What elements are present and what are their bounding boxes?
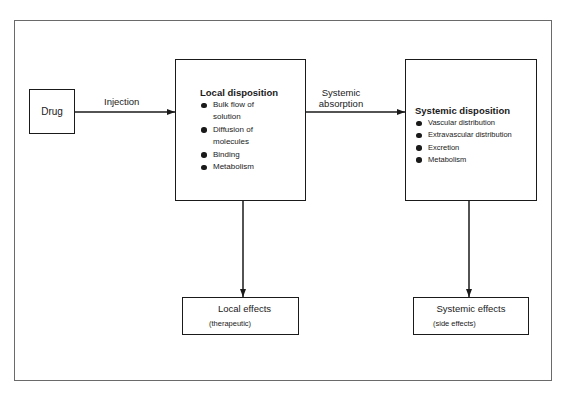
systemic-effects-title: Systemic effects — [414, 303, 528, 314]
list-item: Excretion — [415, 142, 512, 154]
list-item: Metabolism — [200, 161, 254, 173]
list-item: Metabolism — [415, 154, 512, 166]
list-item: Bulk flow ofsolution — [200, 99, 254, 124]
local-disposition-list: Bulk flow ofsolution Diffusion ofmolecul… — [200, 99, 254, 173]
local-effects-title: Local effects — [183, 303, 298, 314]
systemic-disposition-title: Systemic disposition — [415, 105, 510, 116]
local-disposition-node: Local disposition Bulk flow ofsolution D… — [175, 59, 306, 201]
systemic-effects-node: Systemic effects (side effects) — [413, 297, 529, 335]
list-item: Binding — [200, 149, 254, 161]
injection-label: Injection — [104, 96, 139, 107]
local-effects-subtitle: (therapeutic) — [209, 319, 251, 328]
systemic-absorption-label: Systemic absorption — [310, 87, 372, 109]
list-item: Diffusion ofmolecules — [200, 124, 254, 149]
absorption-label-line2: absorption — [310, 98, 372, 109]
systemic-effects-subtitle: (side effects) — [433, 319, 476, 328]
absorption-label-line1: Systemic — [310, 87, 372, 98]
list-item: Vascular distribution — [415, 117, 512, 129]
drug-node: Drug — [29, 89, 75, 134]
systemic-disposition-node: Systemic disposition Vascular distributi… — [405, 59, 537, 201]
systemic-disposition-list: Vascular distribution Extravascular dist… — [415, 117, 512, 166]
local-disposition-title: Local disposition — [200, 87, 278, 98]
drug-label: Drug — [41, 106, 63, 117]
list-item: Extravascular distribution — [415, 129, 512, 141]
local-effects-node: Local effects (therapeutic) — [182, 297, 299, 335]
